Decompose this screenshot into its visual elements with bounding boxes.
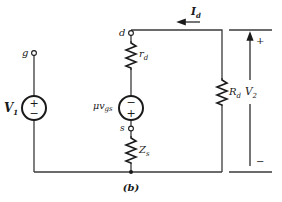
source-label: s (120, 123, 125, 133)
ground-junction-dot (129, 170, 133, 174)
input-voltage-source: + − V1 (4, 96, 46, 120)
v2-plus: + (256, 35, 264, 46)
v1-label: V1 (4, 101, 18, 117)
source-impedance: Zs (126, 136, 150, 164)
dep-source-plus: + (126, 107, 135, 120)
v1-minus: − (29, 107, 38, 120)
load-rd-label: Rd (228, 86, 242, 100)
load-rd-zigzag (217, 78, 227, 106)
output-voltage-annotation: + − V2 (229, 30, 272, 172)
rd-label: rd (139, 48, 149, 62)
dep-source-label: μvgs (93, 100, 113, 113)
drain-current-annotation: Id (181, 5, 201, 22)
v2-label: V2 (245, 85, 258, 100)
v2-minus: − (256, 156, 264, 167)
figure-caption: (b) (123, 182, 140, 193)
zs-zigzag (126, 136, 136, 164)
gate-label: g (22, 47, 28, 58)
load-resistor: Rd (217, 78, 242, 106)
dependent-voltage-source: − + μvgs (93, 96, 143, 120)
circuit-diagram: g d s + − V1 − + μvgs rd Zs (0, 0, 282, 202)
zs-label: Zs (138, 144, 150, 158)
current-label: Id (190, 5, 201, 20)
drain-label: d (119, 27, 125, 38)
rd-zigzag (126, 41, 136, 70)
drain-resistance: rd (126, 41, 149, 70)
